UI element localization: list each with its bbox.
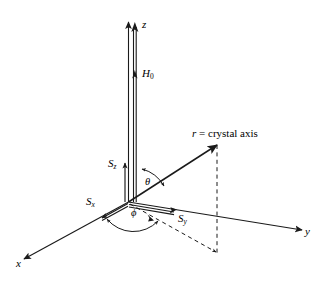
Sy-vector-label: Sy bbox=[178, 213, 187, 224]
Sy-subscript: y bbox=[184, 217, 187, 226]
crystal-axis-label: r = crystal axis bbox=[192, 128, 258, 139]
H0-vector-label: H0 bbox=[142, 68, 154, 79]
z-axis-label: z bbox=[142, 19, 146, 30]
x-axis-label: x bbox=[16, 258, 21, 269]
vector-diagram-figure: z x y H0 Sz Sx Sy θ ϕ r = crystal axis bbox=[0, 0, 324, 281]
y-axis-line bbox=[129, 202, 303, 230]
crystal-axis-arrow bbox=[129, 145, 218, 202]
Sx-subscript: x bbox=[92, 200, 95, 209]
Sz-vector-label: Sz bbox=[108, 158, 116, 169]
projection-dashed-lines bbox=[130, 145, 217, 253]
y-axis-label: y bbox=[305, 226, 310, 237]
Sx-vector-label: Sx bbox=[86, 196, 95, 207]
x-axis-line bbox=[24, 202, 129, 259]
H0-vector-arrow bbox=[131, 22, 138, 202]
Sx-vector-arrow bbox=[102, 204, 128, 221]
crystal-axis-text: crystal axis bbox=[208, 127, 258, 139]
Sz-subscript: z bbox=[114, 162, 117, 171]
diagram-canvas bbox=[0, 0, 324, 281]
theta-angle-label: θ bbox=[145, 177, 150, 188]
H0-subscript: 0 bbox=[150, 72, 154, 81]
phi-angle-label: ϕ bbox=[131, 208, 136, 219]
